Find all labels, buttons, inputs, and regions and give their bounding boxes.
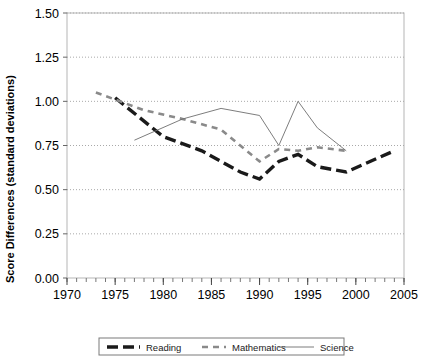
- legend: ReadingMathematicsScience: [99, 338, 354, 355]
- y-tick-label: 1.25: [35, 51, 59, 65]
- line-chart-figure: Score Differences (standard deviations) …: [0, 0, 421, 361]
- x-tick-label: 1990: [246, 288, 274, 302]
- y-tick-label: 0.25: [35, 227, 59, 241]
- plot-area: 0.000.250.500.751.001.251.50 19701975198…: [35, 7, 418, 303]
- x-tick-label: 1980: [149, 288, 177, 302]
- legend-label-reading: Reading: [146, 342, 181, 353]
- x-tick-label: 2000: [342, 288, 370, 302]
- y-axis-title: Score Differences (standard deviations): [4, 75, 16, 283]
- y-tick-label: 0.00: [35, 272, 59, 286]
- x-tick-label: 1995: [294, 288, 322, 302]
- y-tick-label: 1.00: [35, 95, 59, 109]
- y-tick-label: 1.50: [35, 7, 59, 21]
- legend-label-science: Science: [320, 342, 354, 353]
- legend-box: [99, 338, 344, 355]
- x-tick-label: 1985: [198, 288, 226, 302]
- x-tick-label: 1975: [101, 288, 129, 302]
- y-tick-label: 0.50: [35, 183, 59, 197]
- x-tick-label: 2005: [390, 288, 418, 302]
- x-tick-label: 1970: [53, 288, 81, 302]
- y-tick-label: 0.75: [35, 139, 59, 153]
- legend-label-mathematics: Mathematics: [232, 342, 286, 353]
